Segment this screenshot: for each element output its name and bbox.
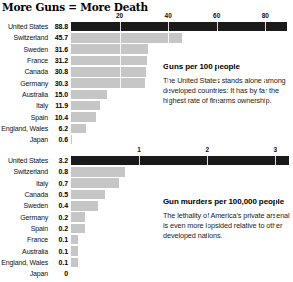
bar — [71, 156, 289, 166]
bar — [71, 67, 146, 77]
bar — [71, 246, 78, 256]
chart-row: Australia0.1 — [0, 245, 293, 256]
chart-row: United States88.8 — [0, 21, 293, 32]
x-axis-tick-label: 1 — [127, 146, 151, 153]
chart-row: Italy0.7 — [0, 178, 293, 189]
value-label: 0.5 — [48, 191, 68, 198]
x-axis-tick-label: 80 — [253, 12, 277, 19]
gridline — [139, 155, 140, 279]
bar-track — [71, 33, 293, 43]
bar — [71, 124, 86, 134]
x-axis-tick-label: 3 — [263, 146, 287, 153]
chart-subtitle: Gun murders per 100,000 people — [163, 197, 293, 206]
country-label: Switzerland — [0, 168, 48, 175]
bar-track — [71, 167, 293, 177]
gridline — [275, 155, 276, 279]
bar — [71, 212, 85, 222]
chart-subtitle: Guns per 100 people — [163, 62, 293, 71]
murders-annotation: Gun murders per 100,000 people The letha… — [163, 197, 293, 241]
bar-track — [71, 246, 293, 256]
chart-row: United States3.2 — [0, 155, 293, 166]
value-label: 0.7 — [48, 180, 68, 187]
bar — [71, 178, 119, 188]
bar — [71, 22, 287, 32]
gridline — [168, 21, 169, 145]
bar — [71, 90, 107, 100]
value-label: 30.3 — [48, 80, 68, 87]
value-label: 30.8 — [48, 68, 68, 75]
bar — [71, 33, 182, 43]
value-label: 0.1 — [48, 236, 68, 243]
country-label: Spain — [0, 225, 48, 232]
bar — [71, 190, 105, 200]
value-label: 0.2 — [48, 214, 68, 221]
value-label: 6.2 — [48, 125, 68, 132]
chart-annotation-text: The lethality of America's private arsen… — [163, 211, 293, 241]
value-label: 45.7 — [48, 34, 68, 41]
value-label: 0.1 — [48, 248, 68, 255]
bar-track — [71, 124, 293, 134]
x-axis-tick-label: 2 — [195, 146, 219, 153]
bar — [71, 201, 98, 211]
value-label: 10.4 — [48, 114, 68, 121]
bar-track — [71, 112, 293, 122]
country-label: Italy — [0, 180, 48, 187]
chart-row: Switzerland0.8 — [0, 166, 293, 177]
chart-row: Japan0 — [0, 268, 293, 279]
value-label: 11.9 — [48, 102, 68, 109]
bar-track — [71, 44, 293, 54]
bar — [71, 44, 148, 54]
chart-row: England, Wales6.2 — [0, 123, 293, 134]
country-label: United States — [0, 23, 48, 30]
country-label: Germany — [0, 214, 48, 221]
bar — [71, 167, 125, 177]
x-axis-tick-label: 60 — [205, 12, 229, 19]
x-axis-ticks: 20406080 — [0, 12, 293, 21]
country-label: Canada — [0, 191, 48, 198]
value-label: 0.2 — [48, 225, 68, 232]
value-label: 31.2 — [48, 57, 68, 64]
value-label: 0.8 — [48, 168, 68, 175]
bar — [71, 101, 100, 111]
country-label: France — [0, 236, 48, 243]
bar-track — [71, 22, 293, 32]
country-label: England, Wales — [0, 259, 48, 266]
country-label: Canada — [0, 68, 48, 75]
chart-row: England, Wales0.1 — [0, 257, 293, 268]
country-label: Australia — [0, 248, 48, 255]
country-label: Japan — [0, 136, 48, 143]
value-label: 0.1 — [48, 259, 68, 266]
country-label: Sweden — [0, 202, 48, 209]
value-label: 3.2 — [48, 157, 68, 164]
value-label: 0 — [48, 270, 68, 277]
bar — [71, 135, 72, 145]
bar-track — [71, 269, 293, 279]
value-label: 0.6 — [48, 136, 68, 143]
chart-row: Switzerland45.7 — [0, 32, 293, 43]
country-label: France — [0, 57, 48, 64]
country-label: England, Wales — [0, 125, 48, 132]
country-label: Italy — [0, 102, 48, 109]
bar-track — [71, 178, 293, 188]
gridline — [217, 21, 218, 145]
country-label: Germany — [0, 80, 48, 87]
x-axis-tick-label: 20 — [108, 12, 132, 19]
bar — [71, 224, 85, 234]
value-label: 0.4 — [48, 202, 68, 209]
value-label: 88.8 — [48, 23, 68, 30]
chart-row: Japan0.6 — [0, 134, 293, 145]
value-label: 15.0 — [48, 91, 68, 98]
guns-annotation: Guns per 100 people The United States st… — [163, 62, 293, 106]
country-label: Japan — [0, 270, 48, 277]
bar — [71, 235, 78, 245]
bar — [71, 56, 147, 66]
bar — [71, 112, 96, 122]
x-axis-ticks: 123 — [0, 146, 293, 155]
bar-track — [71, 135, 293, 145]
chart-annotation-text: The United States stands alone among dev… — [163, 76, 293, 106]
country-label: Spain — [0, 114, 48, 121]
country-label: Sweden — [0, 46, 48, 53]
country-label: Switzerland — [0, 34, 48, 41]
gridline — [120, 21, 121, 145]
bar — [71, 78, 145, 88]
